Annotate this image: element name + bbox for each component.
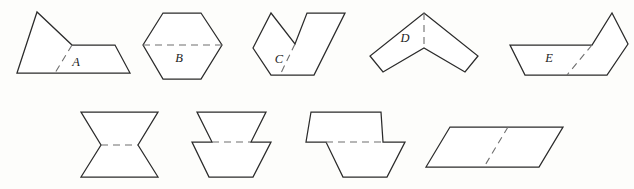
figure-c-label: C (275, 52, 284, 66)
figure-g-outline (192, 112, 271, 177)
figure-e[interactable]: E (510, 13, 628, 75)
figure-sheet: ABCDE (0, 0, 634, 189)
figure-b[interactable]: B (143, 13, 222, 79)
figure-i-outline (426, 127, 563, 167)
figure-e-label: E (544, 51, 553, 65)
figure-d[interactable]: D (370, 13, 478, 72)
figure-i[interactable] (426, 127, 563, 167)
figure-c[interactable]: C (253, 13, 345, 75)
figure-f[interactable] (81, 112, 158, 177)
figure-a[interactable]: A (17, 12, 130, 73)
figure-h-outline (306, 112, 405, 177)
figure-d-label: D (399, 31, 409, 45)
figure-e-outline (510, 13, 628, 75)
figure-b-outline (143, 13, 222, 79)
figure-c-outline (253, 13, 345, 75)
figure-g[interactable] (192, 112, 271, 177)
figure-a-label: A (71, 55, 80, 69)
figure-b-label: B (175, 51, 183, 65)
figure-canvas: ABCDE (0, 0, 634, 189)
figure-h[interactable] (306, 112, 405, 177)
figures-group: ABCDE (17, 12, 628, 177)
